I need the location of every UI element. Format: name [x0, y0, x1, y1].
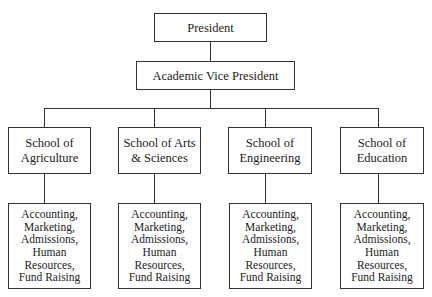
connector-horizontal-bus [44, 108, 379, 109]
department-line: Human [33, 246, 67, 259]
connector-bus-education [378, 108, 379, 127]
node-departments-education: Accounting, Marketing, Admissions, Human… [340, 203, 424, 289]
department-line: Human [365, 246, 399, 259]
department-line: Admissions, [21, 233, 78, 246]
school-label-line2: Education [357, 151, 408, 166]
node-school-education: School of Education [340, 127, 424, 174]
node-school-engineering: School of Engineering [228, 127, 312, 174]
node-school-arts-sciences: School of Arts & Sciences [118, 127, 201, 174]
connector-arts-sciences-departments [154, 174, 155, 203]
department-line: Fund Raising [129, 271, 191, 284]
department-line: Marketing, [245, 221, 296, 234]
department-line: Resources, [134, 259, 184, 272]
department-line: Accounting, [242, 208, 299, 221]
department-line: Human [254, 246, 288, 259]
department-line: Accounting, [354, 208, 411, 221]
department-line: Resources, [24, 259, 74, 272]
node-academic-vice-president: Academic Vice President [136, 61, 295, 90]
node-president: President [154, 13, 267, 42]
node-school-agriculture: School of Agriculture [8, 127, 91, 174]
school-label-line1: School of [358, 136, 406, 151]
connector-agriculture-departments [44, 174, 45, 203]
department-line: Accounting, [21, 208, 78, 221]
school-label-line2: Agriculture [21, 151, 79, 166]
department-line: Fund Raising [240, 271, 302, 284]
department-line: Marketing, [357, 221, 408, 234]
school-label-line1: School of [25, 136, 73, 151]
school-label-line2: & Sciences [131, 151, 188, 166]
department-line: Accounting, [131, 208, 188, 221]
department-line: Human [143, 246, 177, 259]
node-departments-agriculture: Accounting, Marketing, Admissions, Human… [8, 203, 91, 289]
school-label-line2: Engineering [239, 151, 300, 166]
department-line: Marketing, [24, 221, 75, 234]
department-line: Admissions, [131, 233, 188, 246]
connector-bus-engineering [265, 108, 266, 127]
node-vp-label: Academic Vice President [152, 69, 278, 83]
connector-vp-bus [210, 90, 211, 108]
connector-bus-arts-sciences [154, 108, 155, 127]
department-line: Fund Raising [351, 271, 413, 284]
connector-bus-agriculture [44, 108, 45, 127]
department-line: Resources, [245, 259, 295, 272]
connector-education-departments [378, 174, 379, 203]
department-line: Fund Raising [19, 271, 81, 284]
department-line: Admissions, [353, 233, 410, 246]
node-departments-engineering: Accounting, Marketing, Admissions, Human… [229, 203, 312, 289]
node-president-label: President [187, 21, 234, 35]
department-line: Admissions, [242, 233, 299, 246]
department-line: Resources, [357, 259, 407, 272]
node-departments-arts-sciences: Accounting, Marketing, Admissions, Human… [118, 203, 201, 289]
school-label-line1: School of Arts [123, 136, 195, 151]
school-label-line1: School of [246, 136, 294, 151]
department-line: Marketing, [134, 221, 185, 234]
connector-president-vp [210, 42, 211, 61]
connector-engineering-departments [265, 174, 266, 203]
